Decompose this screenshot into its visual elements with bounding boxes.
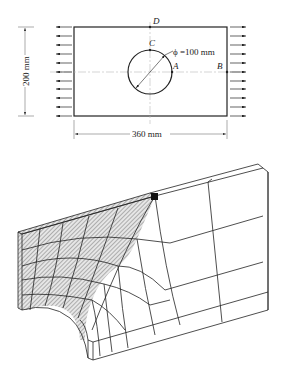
diameter-leader — [165, 51, 173, 55]
point-b-label: B — [217, 61, 223, 71]
point-d-marker — [149, 26, 151, 28]
node-marker — [151, 193, 158, 200]
diameter-label: ϕ =100 mm — [173, 47, 215, 57]
right-load-arrows — [230, 27, 246, 116]
diagram-canvas: ϕ =100 mm A B C D — [0, 0, 286, 380]
mesh-3d-drawing — [18, 164, 268, 360]
point-b-marker — [226, 71, 228, 73]
point-a-label: A — [172, 61, 179, 71]
plate-with-hole-drawing: ϕ =100 mm A B C D — [18, 16, 246, 139]
point-c-label: C — [149, 38, 156, 48]
left-load-arrows — [56, 27, 72, 116]
diameter-line — [136, 55, 165, 88]
point-a-marker — [171, 71, 173, 73]
point-c-marker — [149, 49, 151, 51]
point-d-label: D — [152, 16, 160, 26]
height-label: 200 mm — [21, 56, 31, 86]
width-label: 360 mm — [132, 129, 162, 139]
